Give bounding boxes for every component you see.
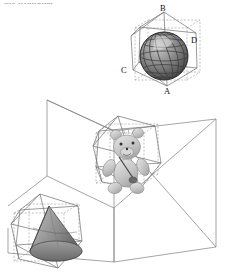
teddy-bear-bounding-group [93,116,161,195]
wireframe-sphere [134,26,194,86]
vertex-label-c: C [121,66,127,75]
cone-model [30,206,82,261]
teddy-bear-sash-knot [129,177,137,183]
sphere-bounding-group [131,12,200,86]
cone-bounding-group [11,194,82,268]
figure-root: the irrational [0,0,230,277]
vertex-label-b: B [160,4,166,13]
vertex-label-d: D [191,36,197,45]
vertex-label-a: A [164,87,170,96]
teddy-bear-model [100,128,152,195]
